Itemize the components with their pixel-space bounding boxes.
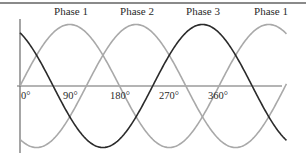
- tick-label-360: 360°: [208, 90, 228, 101]
- three-phase-sine-chart: Phase 1 Phase 2 Phase 3 Phase 1 0° 90° 1…: [0, 0, 306, 163]
- tick-label-0: 0°: [21, 90, 30, 101]
- tick-label-270: 270°: [159, 90, 179, 101]
- tick-label-90: 90°: [63, 90, 78, 101]
- phase-1-label: Phase 1: [54, 5, 88, 17]
- tick-label-180: 180°: [110, 90, 130, 101]
- phase-2-label: Phase 2: [120, 5, 154, 17]
- phase-3-label: Phase 3: [186, 5, 220, 17]
- phase-1-repeat-label: Phase 1: [254, 5, 288, 17]
